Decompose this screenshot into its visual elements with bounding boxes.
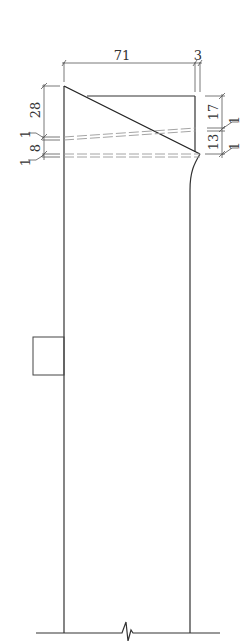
drawing-canvas: 71 3 28 1 8 1 17 1 13 1 <box>0 0 249 641</box>
side-bracket <box>33 337 64 375</box>
dim-top-offset: 3 <box>194 48 202 63</box>
dim-left-upper: 28 <box>28 102 43 119</box>
dim-left-lower: 8 <box>28 144 43 152</box>
top-dimension <box>62 60 202 92</box>
hidden-lines <box>64 128 200 157</box>
dim-left-gap-2: 1 <box>18 158 33 166</box>
dim-right-upper: 17 <box>206 104 221 121</box>
dim-top-width: 71 <box>114 48 131 63</box>
dim-right-lower: 13 <box>206 134 221 151</box>
dim-right-gap-1: 1 <box>227 116 242 124</box>
dim-right-gap-2: 1 <box>227 142 242 150</box>
section-drawing: 71 3 28 1 8 1 17 1 13 1 <box>0 0 249 641</box>
dim-left-gap-1: 1 <box>18 130 33 138</box>
